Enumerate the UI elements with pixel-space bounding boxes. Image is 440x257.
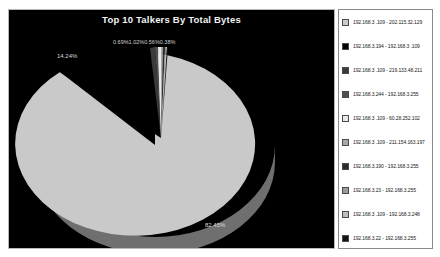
legend-label-3: 192.168.3.244 - 192.168.3.255 xyxy=(353,92,419,97)
legend-label-7: 192.168.3.23 - 192.168.3.255 xyxy=(353,188,416,193)
legend-swatch-icon-3 xyxy=(342,91,349,98)
legend-label-0: 192.168.3 .109 - 202.115.32.129 xyxy=(353,20,422,25)
legend-swatch-icon-7 xyxy=(342,187,349,194)
chart-plot-area: Top 10 Talkers By Total Bytes xyxy=(8,9,335,249)
pie-label-major: 82.45% xyxy=(205,222,225,228)
pie-label-cluster: 0.69%1.02%0.56%0.38% xyxy=(113,40,233,49)
legend-label-8: 192.168.3 .109 - 192.168.3.248 xyxy=(353,212,420,217)
chart-screenshot: Top 10 Talkers By Total Bytes xyxy=(0,0,440,257)
legend-label-9: 192.168.3.22 - 192.168.3.255 xyxy=(353,236,416,241)
legend-item-3[interactable]: 192.168.3.244 - 192.168.3.255 xyxy=(339,82,432,106)
legend-item-5[interactable]: 192.168.3 .109 - 211.154.163.197 xyxy=(339,130,432,154)
pie-label-second: 14.24% xyxy=(57,53,77,59)
legend-swatch-icon-9 xyxy=(342,235,349,242)
legend-swatch-icon-5 xyxy=(342,139,349,146)
legend-item-2[interactable]: 192.168.3 .109 - 219.133.48.211 xyxy=(339,58,432,82)
legend-swatch-icon-8 xyxy=(342,211,349,218)
legend-label-5: 192.168.3 .109 - 211.154.163.197 xyxy=(353,140,425,145)
legend-item-7[interactable]: 192.168.3.23 - 192.168.3.255 xyxy=(339,178,432,202)
pie-chart: 14.24% 0.69%1.02%0.56%0.38% 82.45% xyxy=(9,10,335,249)
legend-swatch-icon-2 xyxy=(342,67,349,74)
legend-swatch-icon-0 xyxy=(342,19,349,26)
legend-swatch-icon-4 xyxy=(342,115,349,122)
legend-item-1[interactable]: 192.168.3.194 - 192.168.3 .109 xyxy=(339,34,432,58)
legend-label-6: 192.168.3.190 - 192.168.3.255 xyxy=(353,164,419,169)
legend-label-4: 192.168.3 .109 - 60.28.252.102 xyxy=(353,116,420,121)
legend-swatch-icon-6 xyxy=(342,163,349,170)
legend-swatch-icon-1 xyxy=(342,43,349,50)
legend-item-6[interactable]: 192.168.3.190 - 192.168.3.255 xyxy=(339,154,432,178)
legend-item-9[interactable]: 192.168.3.22 - 192.168.3.255 xyxy=(339,226,432,250)
pie-label-tiny-group: 0.69%1.02%0.56%0.38% xyxy=(113,40,175,46)
legend-item-0[interactable]: 192.168.3 .109 - 202.115.32.129 xyxy=(339,10,432,34)
chart-legend: 192.168.3 .109 - 202.115.32.129 192.168.… xyxy=(338,9,433,249)
legend-item-4[interactable]: 192.168.3 .109 - 60.28.252.102 xyxy=(339,106,432,130)
legend-label-2: 192.168.3 .109 - 219.133.48.211 xyxy=(353,68,422,73)
legend-label-1: 192.168.3.194 - 192.168.3 .109 xyxy=(353,44,420,49)
legend-item-8[interactable]: 192.168.3 .109 - 192.168.3.248 xyxy=(339,202,432,226)
